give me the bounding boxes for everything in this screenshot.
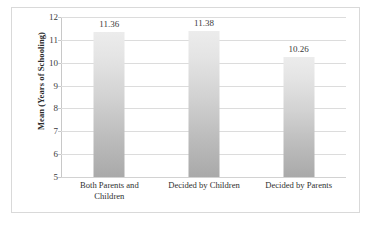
y-axis-tick-label: 11 xyxy=(34,35,58,45)
bar-value-label: 11.38 xyxy=(194,18,214,28)
bars-layer: 11.3611.3810.26 xyxy=(62,17,346,177)
x-axis-category-label: Decided by Children xyxy=(157,180,252,191)
x-axis-category-label-line: Children xyxy=(62,191,157,202)
bar-group: 11.36 xyxy=(62,17,157,177)
chart-plot-wrapper: Mean (Years of Schooling) 56789101112 11… xyxy=(12,8,359,212)
bar[interactable] xyxy=(94,32,125,177)
y-axis-tick-labels: 56789101112 xyxy=(34,8,58,212)
bar-group: 10.26 xyxy=(251,17,346,177)
chart-container: Mean (Years of Schooling) 56789101112 11… xyxy=(11,7,360,213)
x-axis-category-label-line: Decided by Parents xyxy=(251,180,346,191)
plot-area: 11.3611.3810.26 xyxy=(61,17,346,177)
x-axis-category-labels: Both Parents andChildrenDecided by Child… xyxy=(62,180,346,212)
x-axis-category-label: Decided by Parents xyxy=(251,180,346,191)
y-axis-tick-label: 5 xyxy=(34,172,58,182)
y-axis-tick-label: 10 xyxy=(34,58,58,68)
y-axis-tick-label: 8 xyxy=(34,103,58,113)
y-axis-tick-label: 12 xyxy=(34,12,58,22)
y-axis-tick-label: 7 xyxy=(34,126,58,136)
bar-value-label: 11.36 xyxy=(99,19,119,29)
bar-group: 11.38 xyxy=(157,17,252,177)
bar[interactable] xyxy=(188,31,219,177)
x-axis-category-label: Both Parents andChildren xyxy=(62,180,157,202)
y-axis-tick-label: 9 xyxy=(34,81,58,91)
x-axis-category-label-line: Decided by Children xyxy=(157,180,252,191)
bar-value-label: 10.26 xyxy=(289,44,309,54)
gridline xyxy=(61,177,346,178)
bar[interactable] xyxy=(283,57,314,177)
y-axis-tick-label: 6 xyxy=(34,149,58,159)
x-axis-category-label-line: Both Parents and xyxy=(62,180,157,191)
